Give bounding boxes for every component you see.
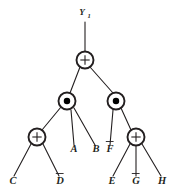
output-label-group: Y 1 bbox=[79, 7, 90, 19]
leaf-a[interactable]: A bbox=[69, 143, 77, 154]
leaf-e[interactable]: E bbox=[107, 175, 115, 186]
edge-or-left-to-c bbox=[14, 144, 31, 176]
and-dot-icon bbox=[113, 98, 119, 104]
leaf-g[interactable]: G bbox=[132, 174, 140, 187]
edge-and-right-to-f bbox=[110, 110, 113, 145]
output-label: Y bbox=[79, 7, 86, 17]
leaf-c[interactable]: C bbox=[9, 175, 17, 186]
or-gate-root[interactable] bbox=[77, 52, 94, 69]
leaf-g-text: G bbox=[132, 175, 140, 186]
or-gate-left[interactable] bbox=[29, 129, 46, 146]
and-gate-right[interactable] bbox=[108, 93, 125, 110]
edge-or-right-to-h bbox=[142, 144, 161, 176]
edge-root-to-and-right bbox=[90, 67, 113, 93]
edge-root-to-and-left bbox=[70, 67, 80, 93]
gates-group bbox=[29, 52, 145, 146]
boolean-expression-tree-diagram: ABFCDEGH Y 1 bbox=[0, 0, 175, 190]
leaf-a-text: A bbox=[69, 143, 77, 154]
tree-canvas: ABFCDEGH Y 1 bbox=[0, 0, 175, 190]
leaf-d-text: D bbox=[55, 175, 64, 186]
leaf-b[interactable]: B bbox=[91, 143, 99, 154]
leaf-h[interactable]: H bbox=[157, 175, 167, 186]
edge-and-right-to-or-right bbox=[121, 108, 131, 130]
output-subscript: 1 bbox=[87, 12, 90, 19]
leaf-f-text: F bbox=[105, 143, 113, 154]
leaf-e-text: E bbox=[107, 175, 115, 186]
edge-and-left-to-a bbox=[71, 110, 74, 145]
and-dot-icon bbox=[64, 98, 70, 104]
edges-group bbox=[14, 22, 161, 176]
leaf-d[interactable]: D bbox=[55, 174, 64, 187]
edge-and-left-to-or-left bbox=[42, 107, 61, 130]
and-gate-left[interactable] bbox=[59, 93, 76, 110]
or-gate-right[interactable] bbox=[128, 129, 145, 146]
leaf-labels-group: ABFCDEGH bbox=[9, 142, 166, 187]
edge-and-left-to-b bbox=[74, 108, 95, 145]
leaf-c-text: C bbox=[9, 175, 17, 186]
edge-or-left-to-d bbox=[43, 144, 59, 176]
leaf-f[interactable]: F bbox=[105, 142, 113, 155]
leaf-h-text: H bbox=[157, 175, 167, 186]
edge-or-right-to-e bbox=[113, 144, 130, 176]
leaf-b-text: B bbox=[91, 143, 99, 154]
